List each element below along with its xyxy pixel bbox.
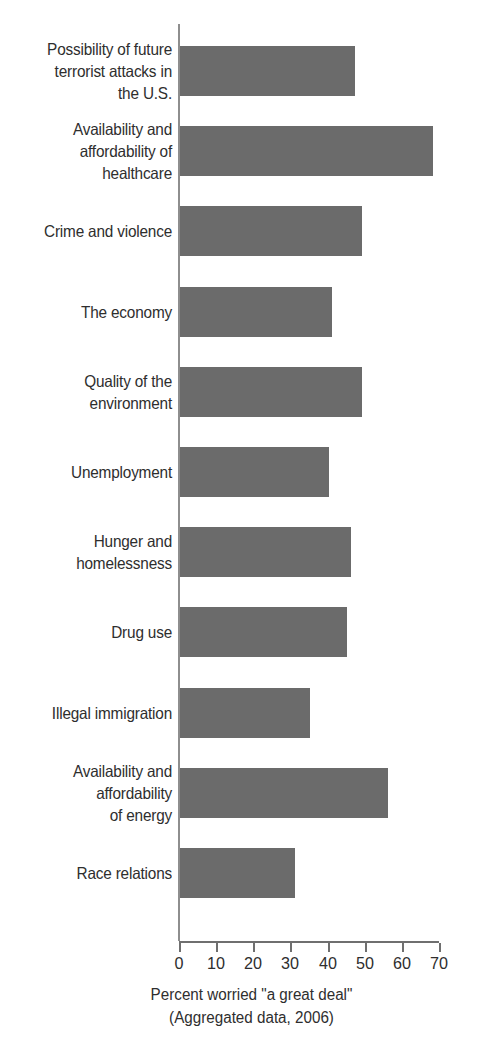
- bar: [180, 607, 347, 657]
- x-axis-subtitle: (Aggregated data, 2006): [33, 1006, 469, 1029]
- x-tick-label: 70: [420, 954, 458, 974]
- x-tick-label: 40: [309, 954, 347, 974]
- bar: [180, 527, 351, 577]
- bar: [180, 367, 362, 417]
- x-tick: [402, 943, 404, 952]
- x-tick-label: 60: [383, 954, 421, 974]
- bar: [180, 46, 355, 96]
- x-tick-label: 10: [197, 954, 235, 974]
- x-tick-label: 50: [346, 954, 384, 974]
- x-tick: [365, 943, 367, 952]
- x-axis-title: Percent worried "a great deal": [33, 983, 469, 1006]
- x-tick: [328, 943, 330, 952]
- bar: [180, 848, 295, 898]
- x-tick: [179, 943, 181, 952]
- x-tick: [439, 943, 441, 952]
- x-axis: 010203040506070 Percent worried "a great…: [0, 935, 481, 1057]
- x-tick: [253, 943, 255, 952]
- bar: [180, 447, 329, 497]
- x-axis-caption: Percent worried "a great deal" (Aggregat…: [0, 983, 481, 1029]
- bar: [180, 206, 362, 256]
- bar: [180, 287, 332, 337]
- bar: [180, 126, 433, 176]
- x-tick-label: 20: [234, 954, 272, 974]
- bar: [180, 768, 388, 818]
- bars-layer: [0, 0, 481, 935]
- bar-chart: Possibility of future terrorist attacks …: [0, 0, 481, 1057]
- plot-area: Possibility of future terrorist attacks …: [0, 0, 481, 935]
- x-tick: [216, 943, 218, 952]
- x-tick: [290, 943, 292, 952]
- bar: [180, 688, 310, 738]
- x-tick-label: 30: [271, 954, 309, 974]
- x-tick-label: 0: [160, 954, 198, 974]
